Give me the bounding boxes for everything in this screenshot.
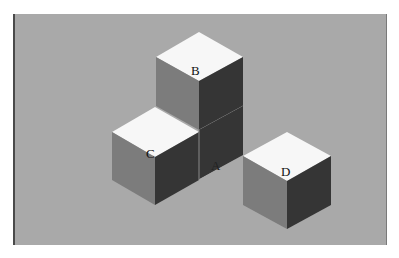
label-d: D	[281, 164, 290, 179]
label-c: C	[146, 146, 155, 161]
cube-d	[243, 132, 331, 229]
label-a: A	[211, 158, 221, 173]
cube-diagram: B C A D	[0, 0, 399, 258]
label-b: B	[191, 63, 200, 78]
